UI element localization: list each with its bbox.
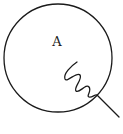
region-label-a: A: [51, 34, 62, 49]
diagram-canvas: A: [0, 0, 123, 134]
boundary-circle: [4, 4, 112, 112]
